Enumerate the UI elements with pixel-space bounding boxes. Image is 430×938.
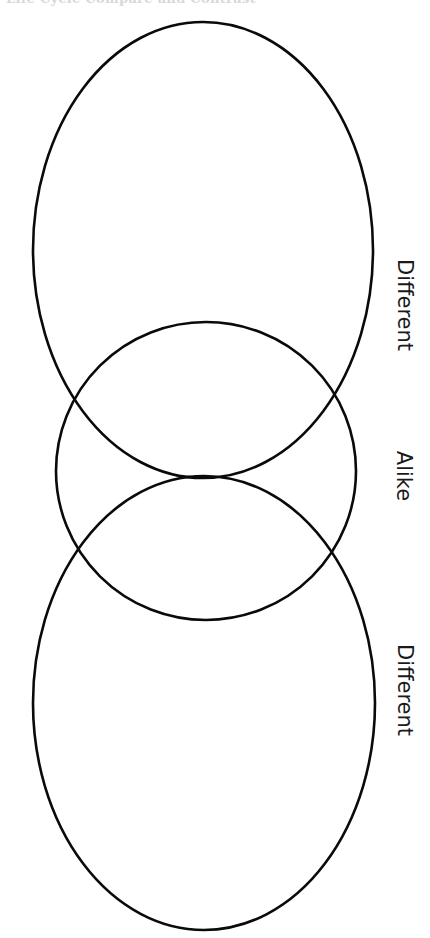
label-different-top: Different xyxy=(391,245,415,365)
venn-ellipse-top[interactable] xyxy=(33,22,373,478)
label-alike: Alike xyxy=(390,436,414,516)
label-different-bottom: Different xyxy=(391,630,415,750)
venn-ellipse-bottom[interactable] xyxy=(33,476,375,930)
worksheet-canvas: Life Cycle Compare and Contrast Differen… xyxy=(0,0,430,938)
venn-ellipse-middle[interactable] xyxy=(56,322,356,620)
venn-diagram xyxy=(0,0,430,938)
